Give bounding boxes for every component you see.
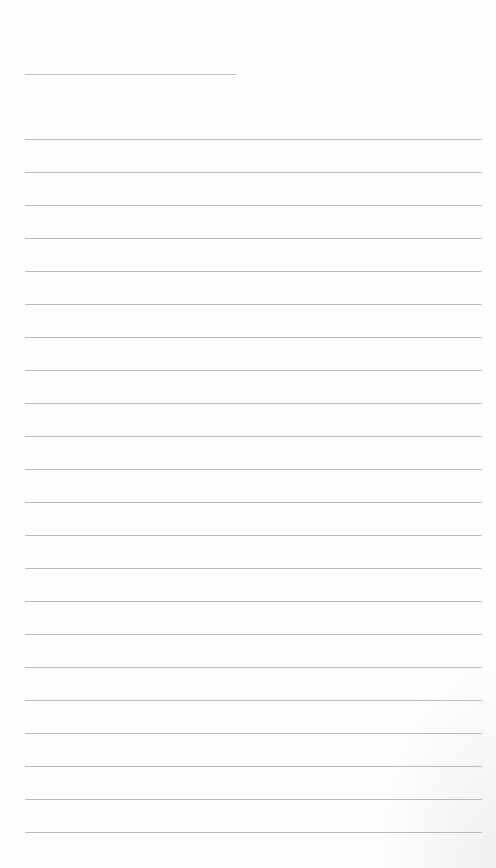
ruled-line [25,502,482,503]
title-line [25,74,236,75]
ruled-line [25,766,482,767]
ruled-line [25,601,482,602]
ruled-line [25,568,482,569]
ruled-line [25,535,482,536]
ruled-line [25,304,482,305]
ruled-line [25,238,482,239]
ruled-line [25,667,482,668]
ruled-line [25,469,482,470]
ruled-line [25,172,482,173]
ruled-line [25,370,482,371]
ruled-line [25,205,482,206]
lined-page [0,0,496,868]
ruled-line [25,733,482,734]
ruled-line [25,139,482,140]
ruled-line [25,832,482,833]
ruled-line [25,799,482,800]
ruled-line [25,700,482,701]
ruled-line [25,337,482,338]
ruled-line [25,436,482,437]
ruled-line [25,403,482,404]
ruled-line [25,271,482,272]
ruled-line [25,634,482,635]
